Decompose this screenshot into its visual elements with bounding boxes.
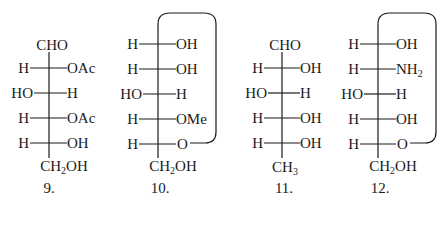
compound-label: 11. <box>275 181 293 196</box>
substituent-left: HO <box>120 87 142 102</box>
substituent-right: OH <box>67 136 89 151</box>
substituent-left: H <box>127 37 138 52</box>
substituent-left: H <box>127 137 138 152</box>
substituent-left: HO <box>245 86 267 101</box>
terminal-group: CH2OH <box>369 159 417 174</box>
substituent-right: OH <box>300 136 322 151</box>
substituent-left: H <box>252 136 263 151</box>
compound-label: 12. <box>371 181 390 196</box>
substituent-right: OMe <box>176 112 207 127</box>
substituent-right: OH <box>396 112 418 127</box>
substituent-left: H <box>348 37 359 52</box>
substituent-left: H <box>348 137 359 152</box>
substituent-left: H <box>252 61 263 76</box>
substituent-right: H <box>176 87 187 102</box>
substituent-right: OH <box>176 62 198 77</box>
substituent-right: OH <box>396 37 418 52</box>
substituent-right: H <box>300 86 311 101</box>
substituent-left: H <box>127 112 138 127</box>
substituent-left: H <box>348 62 359 77</box>
substituent-left: H <box>18 61 29 76</box>
ring-oxygen: O <box>397 137 408 152</box>
terminal-group: CH3 <box>272 160 298 175</box>
substituent-right: OAc <box>67 111 95 126</box>
substituent-left: HO <box>341 87 363 102</box>
aldehyde-group: CHO <box>269 38 301 53</box>
substituent-left: H <box>348 112 359 127</box>
substituent-right: OH <box>300 61 322 76</box>
substituent-left: H <box>18 111 29 126</box>
substituent-right: H <box>396 87 407 102</box>
terminal-group: CH2OH <box>149 159 197 174</box>
aldehyde-group: CHO <box>36 38 68 53</box>
ring-oxygen: O <box>177 137 188 152</box>
terminal-group: CH2OH <box>40 159 88 174</box>
substituent-left: H <box>18 136 29 151</box>
substituent-right: OH <box>176 37 198 52</box>
substituent-left: H <box>127 62 138 77</box>
compound-label: 10. <box>151 181 170 196</box>
substituent-right: OAc <box>67 61 95 76</box>
substituent-left: HO <box>11 86 33 101</box>
compound-label: 9. <box>43 181 54 196</box>
substituent-left: H <box>252 111 263 126</box>
substituent-right: OH <box>300 111 322 126</box>
substituent-right: H <box>67 86 78 101</box>
amino-group: NH2 <box>396 62 423 77</box>
